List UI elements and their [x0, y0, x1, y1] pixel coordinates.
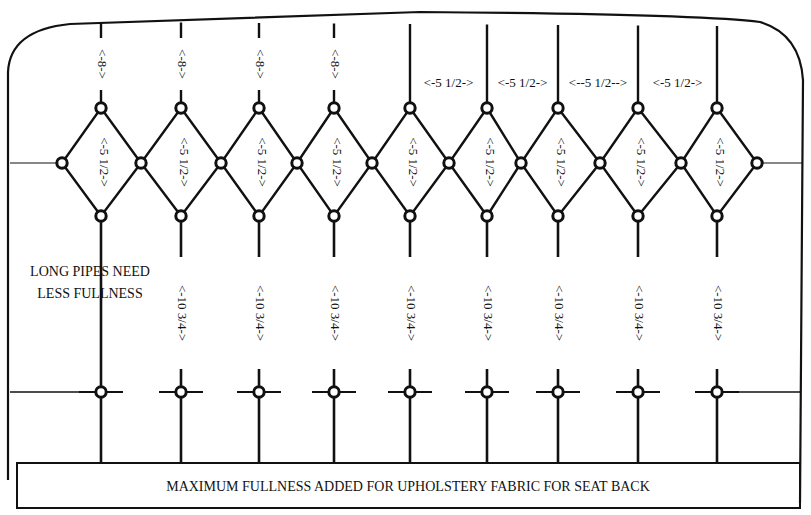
side-note-line-2: LESS FULLNESS [37, 286, 142, 301]
horizontal-dimension-label: <-5 1/2-> [653, 75, 703, 90]
pipe-dimension-label: <-10 3/4-> [632, 285, 647, 341]
tuft-button [136, 158, 146, 168]
tuft-button [96, 211, 106, 221]
tuft-button [553, 211, 563, 221]
diamond-dimension-label: <-5 1/2-> [177, 137, 192, 187]
tuft-button [57, 158, 67, 168]
horizontal-dimension-label: <-5 1/2-> [498, 75, 548, 90]
diamond-dimension-label: <-5 1/2-> [554, 137, 569, 187]
tuft-button [444, 158, 454, 168]
pipe-dimension-label: <-10 3/4-> [552, 285, 567, 341]
pipe-dimension-label: <-10 3/4-> [175, 285, 190, 341]
upholstery-diagram: MAXIMUM FULLNESS ADDED FOR UPHOLSTERY FA… [0, 0, 811, 515]
diagram-canvas: MAXIMUM FULLNESS ADDED FOR UPHOLSTERY FA… [0, 0, 811, 515]
pipe-dimension-label: <-10 3/4-> [404, 285, 419, 341]
tuft-button [712, 103, 722, 113]
diamond-dimension-label: <-5 1/2-> [713, 137, 728, 187]
tuft-button [329, 103, 339, 113]
tuft-button [254, 387, 264, 397]
horizontal-dimension-label: <--5 1/2--> [569, 75, 627, 90]
tuft-button [676, 158, 686, 168]
tuft-button [176, 387, 186, 397]
horizontal-dimension-label: <-5 1/2-> [424, 75, 474, 90]
top-dimension-label: <-8-> [175, 49, 190, 79]
tuft-button [329, 387, 339, 397]
top-dimension-label: <-8-> [328, 49, 343, 79]
top-dimension-label: <-8-> [95, 49, 110, 79]
tuft-button [595, 158, 605, 168]
tuft-button [405, 103, 415, 113]
pipe-dimension-label: <-10 3/4-> [253, 285, 268, 341]
tuft-button [176, 211, 186, 221]
tuft-button [516, 158, 526, 168]
tuft-button [482, 211, 492, 221]
tuft-button [292, 158, 302, 168]
diamond-dimension-label: <-5 1/2-> [255, 137, 270, 187]
tuft-button [752, 158, 762, 168]
tuft-button [176, 103, 186, 113]
tuft-button [367, 158, 377, 168]
diamond-dimension-label: <-5 1/2-> [97, 137, 112, 187]
tuft-button [405, 211, 415, 221]
tuft-button [96, 387, 106, 397]
tuft-button [96, 103, 106, 113]
pipe-dimension-label: <-10 3/4-> [711, 285, 726, 341]
diamond-dimension-label: <-5 1/2-> [330, 137, 345, 187]
pipe-dimension-label: <-10 3/4-> [481, 285, 496, 341]
top-dimension-label: <-8-> [253, 49, 268, 79]
tuft-button [633, 103, 643, 113]
tufting-pattern: <-5 1/2-><-5 1/2-><-10 3/4-><-5 1/2-><-1… [10, 22, 802, 463]
diamond-dimension-label: <-5 1/2-> [634, 137, 649, 187]
tuft-button [482, 387, 492, 397]
pipe-dimension-label: <-10 3/4-> [328, 285, 343, 341]
tuft-button [482, 103, 492, 113]
tuft-button [553, 387, 563, 397]
tuft-button [216, 158, 226, 168]
tuft-button [329, 211, 339, 221]
tuft-button [633, 387, 643, 397]
tuft-button [254, 211, 264, 221]
diamond-dimension-label: <-5 1/2-> [483, 137, 498, 187]
tuft-button [712, 387, 722, 397]
tuft-button [553, 103, 563, 113]
footer-label: MAXIMUM FULLNESS ADDED FOR UPHOLSTERY FA… [166, 479, 650, 494]
side-note-line-1: LONG PIPES NEED [30, 264, 150, 279]
tuft-button [712, 211, 722, 221]
diamond-dimension-label: <-5 1/2-> [406, 137, 421, 187]
tuft-button [405, 387, 415, 397]
tuft-button [254, 103, 264, 113]
tuft-button [633, 211, 643, 221]
